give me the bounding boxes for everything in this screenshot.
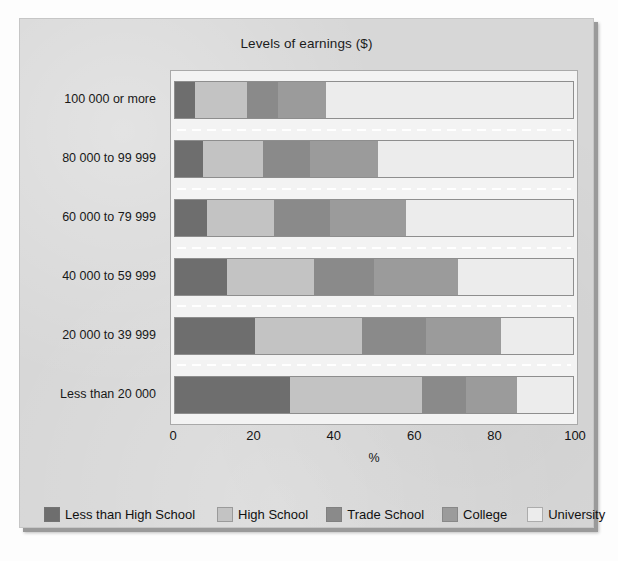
legend-swatch	[44, 507, 60, 522]
bar-segment	[458, 259, 573, 295]
row-separator	[177, 129, 571, 131]
bar-segment	[175, 141, 203, 177]
bar-segment	[466, 377, 518, 413]
bar-segment	[247, 82, 279, 118]
y-axis-label: 60 000 to 79 999	[62, 210, 156, 224]
stacked-bar	[174, 199, 574, 237]
bar-row	[171, 258, 577, 296]
bar-segment	[310, 141, 378, 177]
legend-swatch	[442, 507, 458, 522]
chart-title-text: Levels of earnings ($)	[240, 36, 372, 51]
bar-segment	[314, 259, 374, 295]
x-axis-tick: 60	[407, 428, 421, 443]
bar-segment	[326, 82, 573, 118]
bar-segment	[501, 318, 573, 354]
bar-row	[171, 376, 577, 414]
y-axis-label: 80 000 to 99 999	[62, 151, 156, 165]
stacked-bar	[174, 317, 574, 355]
x-axis-tick: 0	[169, 428, 176, 443]
bar-row	[171, 81, 577, 119]
bar-segment	[203, 141, 263, 177]
row-separator	[177, 188, 571, 190]
stacked-bar	[174, 81, 574, 119]
bar-segment	[175, 318, 255, 354]
x-axis-tick: 40	[327, 428, 341, 443]
legend-item: College	[442, 507, 507, 522]
x-axis-title: %	[170, 451, 578, 465]
legend-swatch	[326, 507, 342, 522]
bar-segment	[517, 377, 573, 413]
stacked-bar	[174, 140, 574, 178]
stacked-bar	[174, 258, 574, 296]
row-separator	[177, 364, 571, 366]
bar-segment	[263, 141, 311, 177]
legend-item: Less than High School	[44, 507, 195, 522]
x-axis-tick: 100	[564, 428, 586, 443]
bar-segment	[374, 259, 458, 295]
bar-row	[171, 140, 577, 178]
bar-segment	[378, 141, 573, 177]
bar-segment	[406, 200, 573, 236]
legend-label: College	[463, 507, 507, 522]
chart-title: Levels of earnings ($)	[20, 36, 593, 51]
y-axis-label: 100 000 or more	[64, 92, 156, 106]
x-axis-tick: 20	[246, 428, 260, 443]
bar-segment	[207, 200, 275, 236]
bar-segment	[227, 259, 315, 295]
scanned-page: Levels of earnings ($) 100 000 or more80…	[0, 0, 618, 561]
x-axis-tick: 80	[487, 428, 501, 443]
bar-row	[171, 199, 577, 237]
bar-row	[171, 317, 577, 355]
y-axis-label: Less than 20 000	[60, 387, 156, 401]
y-axis-labels: 100 000 or more80 000 to 99 99960 000 to…	[20, 70, 166, 425]
y-axis-label: 20 000 to 39 999	[62, 328, 156, 342]
legend-item: University	[527, 507, 605, 522]
bar-segment	[255, 318, 362, 354]
bar-segment	[290, 377, 421, 413]
legend-item: High School	[217, 507, 308, 522]
bar-segment	[274, 200, 330, 236]
bar-segment	[362, 318, 426, 354]
legend-item: Trade School	[326, 507, 424, 522]
x-axis-ticks: 020406080100	[170, 428, 578, 452]
y-axis-label: 40 000 to 59 999	[62, 269, 156, 283]
bar-segment	[175, 377, 290, 413]
bar-segment	[175, 200, 207, 236]
bar-segment	[175, 82, 195, 118]
row-separator	[177, 305, 571, 307]
legend: Less than High SchoolHigh SchoolTrade Sc…	[44, 503, 610, 525]
stacked-bar	[174, 376, 574, 414]
bar-segment	[195, 82, 247, 118]
plot-area	[170, 70, 578, 425]
row-separator	[177, 247, 571, 249]
bar-segment	[426, 318, 502, 354]
legend-label: Less than High School	[65, 507, 195, 522]
bars-container	[171, 71, 577, 424]
bar-segment	[330, 200, 406, 236]
legend-swatch	[527, 507, 543, 522]
legend-label: Trade School	[347, 507, 424, 522]
bar-segment	[278, 82, 326, 118]
chart-sheet: Levels of earnings ($) 100 000 or more80…	[19, 18, 594, 528]
legend-label: University	[548, 507, 605, 522]
bar-segment	[175, 259, 227, 295]
legend-label: High School	[238, 507, 308, 522]
bar-segment	[422, 377, 466, 413]
legend-swatch	[217, 507, 233, 522]
